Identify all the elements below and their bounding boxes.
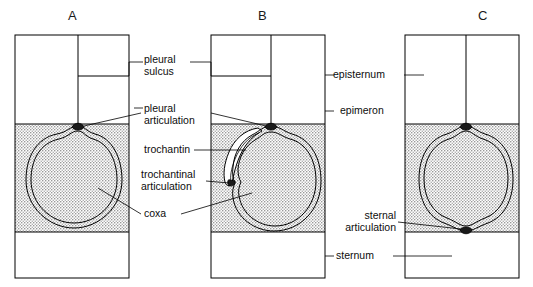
label-sternal-articulation: sternal articulation (318, 210, 396, 233)
panel-letter-b: B (258, 8, 267, 23)
label-trochantinal-articulation-line2: articulation (141, 181, 195, 193)
label-coxa-line1: coxa (144, 208, 166, 220)
label-epimeron: epimeron (340, 105, 384, 117)
label-sternal-articulation-line2: articulation (318, 222, 396, 234)
panel-b-pleural-condyle (265, 123, 277, 130)
label-trochantinal-articulation-line1: trochantinal (141, 169, 195, 181)
label-sternum: sternum (336, 250, 374, 262)
label-pleural-articulation-line1: pleural (144, 103, 195, 115)
panel-c-group (405, 35, 519, 278)
label-trochantin: trochantin (144, 144, 190, 156)
panel-b-group (211, 35, 325, 278)
label-pleural-articulation: pleural articulation (144, 103, 195, 126)
label-trochantin-line1: trochantin (144, 144, 190, 156)
label-pleural-sulcus: pleural sulcus (144, 54, 176, 77)
label-coxa: coxa (144, 208, 166, 220)
panel-c-sternal-condyle (460, 227, 472, 234)
panel-letter-c: C (478, 8, 487, 23)
label-sternum-line1: sternum (336, 250, 374, 262)
panel-a-group (15, 35, 129, 278)
figure-canvas: A B C pleural sulcus pleural articulatio… (0, 0, 533, 287)
label-pleural-articulation-line2: articulation (144, 115, 195, 127)
label-epimeron-line1: epimeron (340, 105, 384, 117)
panel-c-pleural-condyle (460, 123, 472, 130)
diagram-svg (0, 0, 533, 287)
label-episternum-line1: episternum (333, 69, 385, 81)
panel-letter-a: A (68, 8, 77, 23)
label-pleural-sulcus-line1: pleural (144, 54, 176, 66)
panel-a-pleural-band (15, 124, 129, 232)
label-trochantinal-articulation: trochantinal articulation (141, 169, 195, 192)
label-episternum: episternum (333, 69, 385, 81)
panel-a-pleural-condyle (72, 123, 84, 130)
label-pleural-sulcus-line2: sulcus (144, 66, 176, 78)
panel-c-pleural-band (405, 124, 519, 232)
label-sternal-articulation-line1: sternal (318, 210, 396, 222)
